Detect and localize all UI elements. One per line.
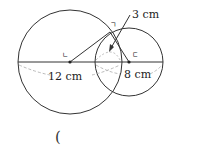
answer-blank: ( <box>55 128 61 146</box>
point-label-giyeok: ㄱ <box>110 21 116 29</box>
point-label-digeut: ㄷ <box>132 51 138 59</box>
two-circles-diagram: ㄱ ㄴ ㄷ 3 cm 12 cm 8 cm <box>0 0 214 158</box>
label-12cm: 12 cm <box>48 70 83 83</box>
center-large-dot <box>68 60 71 63</box>
radius-large <box>70 32 110 62</box>
arrow-head-icon <box>109 44 114 52</box>
dashed-brace-3cm <box>96 52 120 60</box>
point-label-nieun: ㄴ <box>62 51 68 59</box>
center-small-dot <box>127 60 130 63</box>
label-8cm: 8 cm <box>124 68 152 81</box>
label-3cm: 3 cm <box>132 8 160 21</box>
